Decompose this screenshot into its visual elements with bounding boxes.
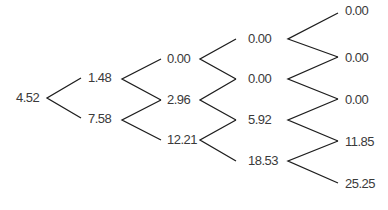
edge-2-0 xyxy=(200,39,236,79)
edge-2-2 xyxy=(200,120,236,161)
edge-1-0 xyxy=(122,59,161,100)
edge-3-1 xyxy=(288,57,338,99)
edge-2-1 xyxy=(200,79,236,120)
node-3-1: 0.00 xyxy=(248,72,271,86)
node-4-4: 25.25 xyxy=(345,177,375,191)
node-1-0: 1.48 xyxy=(88,71,111,85)
node-1-1: 7.58 xyxy=(88,112,111,126)
node-2-0: 0.00 xyxy=(167,52,190,66)
node-4-2: 0.00 xyxy=(345,93,368,107)
tree-edges xyxy=(0,0,388,210)
edge-1-1 xyxy=(122,100,161,140)
node-3-3: 18.53 xyxy=(248,154,278,168)
edge-3-2 xyxy=(288,99,338,141)
edge-0-0 xyxy=(47,78,81,118)
node-0-0: 4.52 xyxy=(16,91,39,105)
node-2-2: 12.21 xyxy=(167,133,197,147)
node-3-0: 0.00 xyxy=(248,32,271,46)
node-4-3: 11.85 xyxy=(345,135,374,149)
node-2-1: 2.96 xyxy=(167,93,190,107)
node-4-0: 0.00 xyxy=(345,4,368,18)
edge-3-0 xyxy=(288,13,338,57)
edge-3-3 xyxy=(288,141,338,183)
node-4-1: 0.00 xyxy=(345,51,368,65)
node-3-2: 5.92 xyxy=(248,113,271,127)
